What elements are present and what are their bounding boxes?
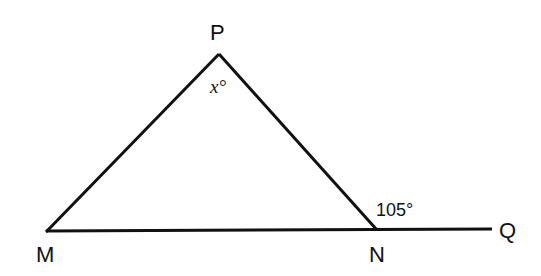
angle-label-x: x°	[209, 76, 226, 97]
segment-pn	[219, 54, 377, 230]
vertex-label-m: M	[36, 242, 54, 267]
segment-mp	[46, 54, 219, 232]
segment-mq	[46, 229, 492, 231]
vertex-label-q: Q	[499, 218, 516, 243]
vertex-label-p: P	[210, 20, 225, 45]
triangle-diagram: P M N Q x° 105°	[0, 0, 541, 276]
angle-label-105: 105°	[376, 200, 413, 220]
vertex-label-n: N	[369, 242, 385, 267]
